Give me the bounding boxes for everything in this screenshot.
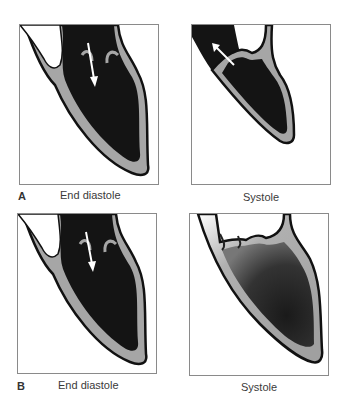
- row-b-right-caption: Systole: [241, 381, 277, 393]
- row-a-letter: A: [18, 190, 26, 202]
- heart-diagram-end-diastole-b: [18, 214, 157, 374]
- panel-a-systole: [191, 24, 331, 185]
- heart-diagram-systole-b: [190, 214, 329, 376]
- panel-b-systole: [189, 213, 329, 376]
- heart-diagram-systole-a: [192, 25, 331, 185]
- panel-a-end-diastole: [19, 24, 159, 185]
- row-b-left-caption: End diastole: [58, 379, 119, 391]
- row-b-letter: B: [17, 380, 25, 392]
- panel-b-end-diastole: [17, 213, 157, 374]
- row-a-left-caption: End diastole: [60, 189, 121, 201]
- row-a-right-caption: Systole: [243, 191, 279, 203]
- heart-diagram-end-diastole: [20, 25, 159, 185]
